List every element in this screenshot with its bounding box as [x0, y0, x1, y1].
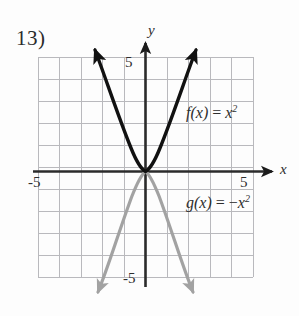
graph-figure: 13) [0, 0, 299, 316]
function-label-g-name: g(x) [186, 194, 212, 211]
function-label-g-base: x [238, 194, 245, 211]
tick-label-y-positive-5: 5 [125, 54, 133, 71]
function-label-f: f(x) = x2 [186, 104, 237, 122]
tick-label-x-negative-5: -5 [28, 174, 41, 191]
function-label-f-name: f(x) [186, 104, 208, 121]
function-label-f-operator: = [208, 104, 225, 121]
function-label-g-exponent: 2 [245, 193, 250, 204]
tick-label-y-negative-5: -5 [123, 270, 136, 287]
y-axis-label: y [148, 22, 155, 39]
x-axis-label: x [280, 161, 287, 178]
tick-label-x-positive-5: 5 [240, 174, 248, 191]
function-label-g: g(x) = −x2 [186, 194, 250, 212]
coordinate-plane [0, 0, 299, 316]
function-label-f-exponent: 2 [232, 103, 237, 114]
function-label-g-operator: = − [212, 194, 238, 211]
